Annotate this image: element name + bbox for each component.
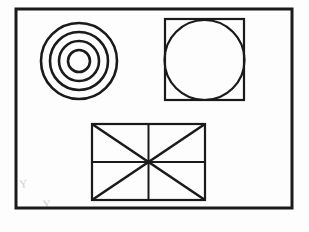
drawing-surface: YY <box>0 0 309 232</box>
drawing-canvas: Geometric Shapes Technical Drawing YY <box>0 0 309 232</box>
internal-lines-group <box>92 124 205 200</box>
rectangle-with-diagonals <box>92 124 205 200</box>
